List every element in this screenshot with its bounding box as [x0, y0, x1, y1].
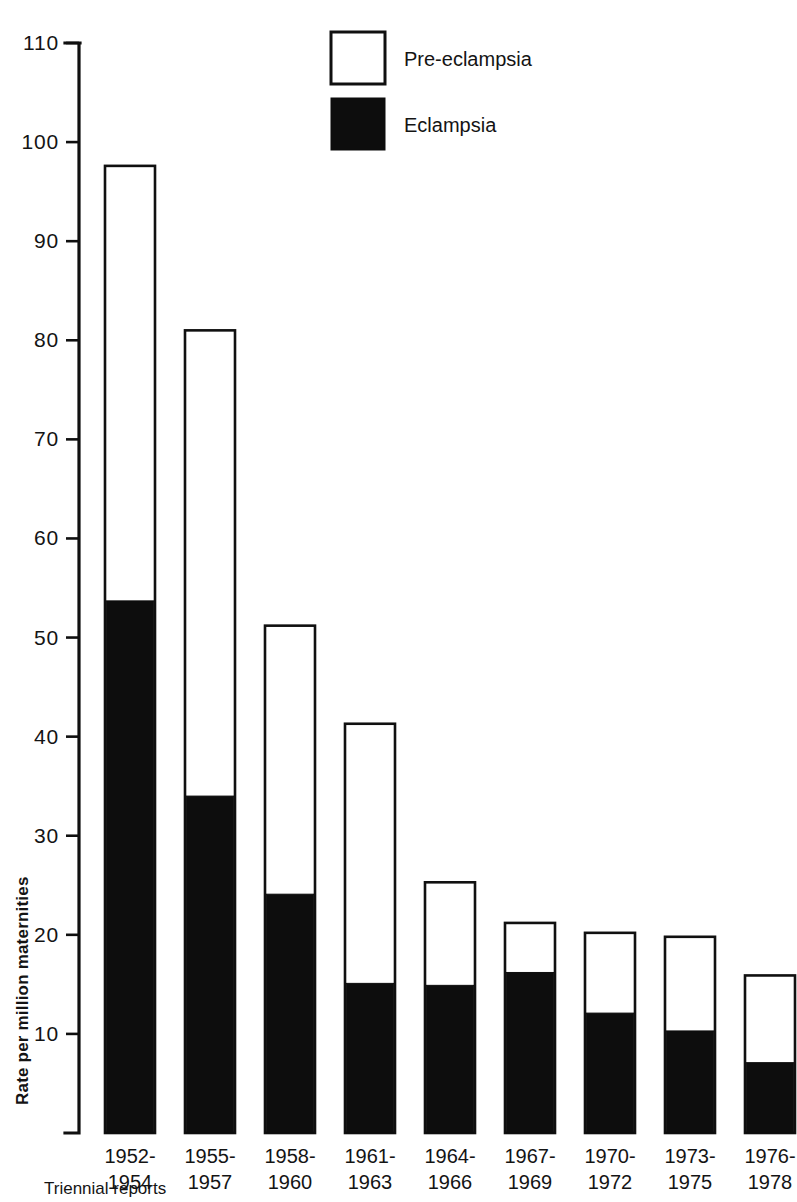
- bar-segment-eclampsia: [586, 1013, 633, 1133]
- y-axis-tick-label: 10: [34, 1022, 59, 1045]
- y-axis-tick-label: 60: [34, 526, 59, 549]
- y-axis-tick-label: 110: [23, 31, 59, 54]
- y-axis-tick-label: 100: [22, 130, 59, 153]
- bar-segment-eclampsia: [266, 894, 313, 1133]
- y-axis-tick-label: 50: [34, 626, 59, 649]
- y-axis-tick-label: 80: [34, 328, 59, 351]
- x-axis-category-label: 1967-1969: [504, 1145, 555, 1193]
- bar-1: [105, 166, 155, 1133]
- y-axis-tick-label: 30: [34, 824, 59, 847]
- x-axis-category-label: 1973-1975: [664, 1145, 715, 1193]
- bar-2: [185, 330, 235, 1133]
- x-axis-category-label: 1961-1963: [344, 1145, 395, 1193]
- bar-9: [745, 975, 795, 1133]
- y-axis-tick-label: 40: [34, 725, 59, 748]
- y-axis-tick-label: 20: [34, 923, 59, 946]
- chart-legend: Pre-eclampsia Eclampsia: [331, 32, 533, 150]
- y-axis-tick-label: 90: [34, 229, 59, 252]
- bar-segment-eclampsia: [426, 985, 473, 1133]
- x-axis-category-labels: 1952-19541955-19571958-19601961-19631964…: [104, 1145, 795, 1193]
- x-axis-title: Triennial reports: [44, 1179, 166, 1198]
- bars-group: [105, 166, 795, 1133]
- bar-segment-eclampsia: [746, 1063, 793, 1133]
- bar-8: [665, 937, 715, 1133]
- bar-5: [425, 882, 475, 1133]
- bar-segment-eclampsia: [666, 1031, 713, 1133]
- chart-figure: 110100908070605040302010 Rate per millio…: [0, 0, 797, 1202]
- bar-4: [345, 724, 395, 1133]
- legend-swatch-pre-eclampsia: [331, 32, 385, 84]
- bar-7: [585, 933, 635, 1133]
- bar-segment-eclampsia: [106, 601, 153, 1133]
- bar-segment-eclampsia: [346, 983, 393, 1133]
- x-axis-category-label: 1970-1972: [584, 1145, 635, 1193]
- y-axis-spine: [65, 43, 80, 1133]
- legend-label-eclampsia: Eclampsia: [404, 114, 497, 136]
- y-axis-tick-label: 70: [34, 427, 59, 450]
- bar-3: [265, 626, 315, 1133]
- x-axis-category-label: 1976-1978: [744, 1145, 795, 1193]
- y-axis-title: Rate per million maternities: [13, 876, 32, 1105]
- x-axis-category-label: 1964-1966: [424, 1145, 475, 1193]
- x-axis-category-label: 1955-1957: [184, 1145, 235, 1193]
- stacked-bar-chart: 110100908070605040302010 Rate per millio…: [0, 0, 797, 1202]
- x-axis-category-label: 1958-1960: [264, 1145, 315, 1193]
- legend-label-pre-eclampsia: Pre-eclampsia: [404, 48, 533, 70]
- bar-segment-eclampsia: [506, 972, 553, 1133]
- legend-swatch-eclampsia: [331, 98, 385, 150]
- bar-6: [505, 923, 555, 1133]
- y-axis-ticks: [66, 43, 79, 1034]
- bar-segment-eclampsia: [186, 796, 233, 1133]
